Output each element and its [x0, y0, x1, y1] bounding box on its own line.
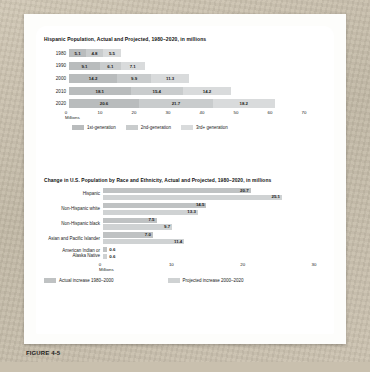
chart-1-legend-item: 1st-generation: [72, 125, 116, 130]
figure-inner-panel: Hispanic Population, Actual and Projecte…: [36, 26, 334, 334]
chart-2-legend-label: Actual increase 1980–2000: [59, 278, 114, 283]
chart-2-bar: 0.6: [103, 254, 107, 259]
chart-2-category-label: American Indian orAlaska Native: [44, 248, 103, 259]
page-bottom-mask: [0, 362, 370, 372]
chart-1-bar-row: 202020.621.718.2: [44, 97, 328, 110]
chart-2-bar-value: 20.7: [240, 188, 249, 193]
chart-population-change: Change in U.S. Population by Race and Et…: [44, 178, 328, 283]
chart-1-bar-row: 19909.16.17.1: [44, 60, 328, 73]
chart-1-bar-value: 20.6: [100, 101, 109, 106]
chart-2-bar-value: 0.6: [109, 254, 115, 259]
chart-1-legend-swatch: [72, 125, 84, 130]
chart-1-bar-segment: 20.6: [69, 99, 139, 107]
chart-1-x-axis-units: Millions: [65, 115, 80, 120]
chart-1-bar-value: 9.9: [131, 76, 137, 81]
chart-1-bar-value: 14.2: [89, 76, 98, 81]
chart-1-bar-segment: 6.1: [100, 62, 121, 70]
chart-2-bar-value: 7.5: [148, 217, 154, 222]
chart-1-x-tick: 50: [234, 110, 239, 115]
chart-hispanic-population: Hispanic Population, Actual and Projecte…: [44, 36, 328, 130]
chart-2-bar: 25.1: [103, 195, 282, 200]
chart-2-category-label: Hispanic: [44, 191, 103, 196]
chart-1-x-tick: 10: [98, 110, 103, 115]
chart-2-category-group: Non-Hispanic black7.59.7: [44, 218, 328, 230]
chart-1-stacked-bar: 18.115.414.2: [69, 87, 231, 95]
chart-2-category-group: Asian and Pacific Islander7.011.4: [44, 232, 328, 244]
chart-1-stacked-bar: 5.14.85.5: [69, 49, 121, 57]
chart-2-bar-pair: 0.60.6: [103, 247, 107, 259]
chart-1-bar-value: 14.2: [203, 89, 212, 94]
chart-1-bar-segment: 21.7: [139, 99, 213, 107]
chart-1-bar-value: 5.1: [75, 51, 81, 56]
chart-2-bar: 20.7: [103, 188, 251, 193]
chart-2-category-group: American Indian orAlaska Native0.60.6: [44, 247, 328, 259]
chart-1-x-tick: 0: [65, 110, 67, 115]
chart-2-bar: 9.7: [103, 224, 172, 229]
chart-2-x-tick: 30: [312, 262, 317, 267]
chart-2-bar-value: 14.5: [196, 202, 205, 207]
chart-2-category-label: Non-Hispanic white: [44, 206, 103, 211]
chart-1-bar-row: 200014.29.911.3: [44, 72, 328, 85]
chart-1-legend-label: 1st-generation: [87, 125, 116, 130]
chart-1-bar-segment: 18.1: [69, 87, 131, 95]
chart-1-bar-segment: 4.8: [86, 49, 102, 57]
chart-1-x-tick: 20: [132, 110, 137, 115]
chart-2-bar: 7.0: [103, 232, 153, 237]
chart-1-stacked-bar: 14.29.911.3: [69, 74, 189, 82]
chart-1-stacked-bar: 9.16.17.1: [69, 62, 145, 70]
chart-1-bar-value: 9.1: [81, 64, 87, 69]
chart-1-bar-value: 15.4: [152, 89, 161, 94]
chart-2-x-tick: 20: [240, 262, 245, 267]
chart-1-legend-label: 3rd+ generation: [196, 125, 228, 130]
chart-1-bar-value: 18.1: [95, 89, 104, 94]
chart-2-bar-value: 25.1: [271, 194, 280, 199]
chart-1-title: Hispanic Population, Actual and Projecte…: [44, 36, 328, 42]
chart-1-bar-segment: 18.2: [213, 99, 275, 107]
chart-2-bar-value: 9.7: [164, 224, 170, 229]
chart-2-category-label: Asian and Pacific Islander: [44, 236, 103, 241]
chart-1-bar-value: 6.1: [107, 64, 113, 69]
chart-2-bar-pair: 7.59.7: [103, 218, 172, 230]
chart-1-bar-value: 5.5: [109, 51, 115, 56]
chart-1-bar-value: 18.2: [239, 101, 248, 106]
chart-2-x-tick: 10: [169, 262, 174, 267]
chart-2-bar-value: 11.4: [174, 239, 182, 244]
chart-2-x-tick: 0: [99, 262, 101, 267]
chart-2-category-group: Hispanic20.725.1: [44, 188, 328, 200]
chart-1-bar-segment: 7.1: [121, 62, 145, 70]
chart-2-bar-pair: 7.011.4: [103, 232, 184, 244]
chart-1-x-axis: 010203040506070Millions: [66, 110, 328, 121]
chart-1-x-tick: 30: [166, 110, 171, 115]
chart-1-category-label: 1990: [44, 63, 69, 68]
chart-1-bar-segment: 11.3: [151, 74, 189, 82]
chart-2-legend-item: Actual increase 1980–2000: [44, 278, 114, 283]
chart-1-legend-label: 2nd-generation: [141, 125, 171, 130]
chart-2-x-axis-units: Millions: [99, 267, 114, 272]
figure-card: Hispanic Population, Actual and Projecte…: [24, 14, 346, 344]
chart-1-legend-item: 3rd+ generation: [181, 125, 228, 130]
chart-2-bar: 0.6: [103, 247, 107, 252]
chart-2-legend-label: Projected increase 2000–2020: [183, 278, 244, 283]
chart-1-legend-swatch: [126, 125, 138, 130]
chart-1-bar-segment: 15.4: [131, 87, 183, 95]
chart-1-bar-segment: 9.9: [117, 74, 151, 82]
chart-1-bar-value: 7.1: [130, 64, 136, 69]
chart-1-x-tick: 70: [302, 110, 307, 115]
chart-2-bar: 11.4: [103, 239, 184, 244]
chart-1-bar-segment: 5.1: [69, 49, 86, 57]
chart-2-bar-pair: 20.725.1: [103, 188, 282, 200]
chart-1-bar-row: 19805.14.85.5: [44, 47, 328, 60]
chart-1-bar-value: 21.7: [172, 101, 181, 106]
chart-2-bar: 14.5: [103, 203, 206, 208]
chart-1-bar-value: 11.3: [166, 76, 174, 81]
chart-1-bar-segment: 14.2: [183, 87, 231, 95]
chart-2-legend-swatch: [168, 278, 180, 283]
chart-2-bar-pair: 14.513.3: [103, 203, 206, 215]
chart-2-bar-value: 0.6: [109, 247, 115, 252]
chart-1-legend: 1st-generation2nd-generation3rd+ generat…: [72, 125, 328, 130]
chart-1-category-label: 2020: [44, 101, 69, 106]
chart-1-plot-area: 19805.14.85.519909.16.17.1200014.29.911.…: [44, 47, 328, 110]
chart-2-bar: 13.3: [103, 210, 198, 215]
figure-caption: FIGURE 4-5: [26, 350, 60, 356]
chart-1-legend-swatch: [181, 125, 193, 130]
